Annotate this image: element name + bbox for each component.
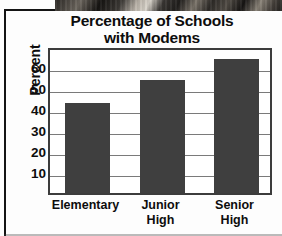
chart-page: Percentage of Schools with Modems Percen… bbox=[0, 0, 282, 236]
x-tick-label-elementary: Elementary bbox=[48, 198, 123, 213]
x-tick-label-line-1: Junior bbox=[141, 198, 179, 212]
page-border-top bbox=[4, 9, 55, 11]
x-tick-label-line-2: High bbox=[123, 213, 198, 228]
x-tick-label-line-1: Elementary bbox=[52, 198, 119, 212]
plot-area bbox=[48, 48, 272, 195]
bar-elementary bbox=[65, 103, 110, 193]
x-tick-label-junior-high: JuniorHigh bbox=[123, 198, 198, 228]
x-tick-label-line-1: Senior bbox=[215, 198, 254, 212]
y-axis-tick-labels: 102030405060 bbox=[0, 48, 46, 195]
chart-title-line-2: with Modems bbox=[28, 29, 276, 46]
x-axis-tick-labels: ElementaryJuniorHighSeniorHigh bbox=[48, 198, 272, 234]
page-border-bottom bbox=[4, 234, 282, 236]
y-tick-label-50: 50 bbox=[4, 83, 46, 96]
y-tick-label-30: 30 bbox=[4, 125, 46, 138]
chart-title-line-1: Percentage of Schools bbox=[71, 12, 234, 29]
y-tick-label-60: 60 bbox=[4, 62, 46, 75]
x-tick-label-senior-high: SeniorHigh bbox=[197, 198, 272, 228]
bar-series bbox=[50, 50, 270, 193]
x-tick-label-line-2: High bbox=[197, 213, 272, 228]
bar-junior-high bbox=[140, 80, 185, 193]
y-tick-label-20: 20 bbox=[4, 146, 46, 159]
photo-fragment-image bbox=[55, 0, 282, 11]
y-tick-label-40: 40 bbox=[4, 104, 46, 117]
bar-senior-high bbox=[214, 59, 259, 193]
chart-title: Percentage of Schools with Modems bbox=[28, 12, 276, 46]
y-tick-label-10: 10 bbox=[4, 167, 46, 180]
